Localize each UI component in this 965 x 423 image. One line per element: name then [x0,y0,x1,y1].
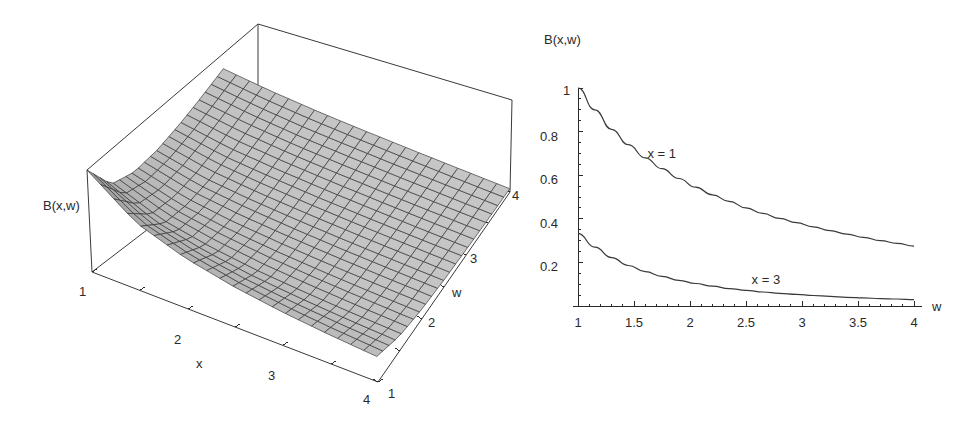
surface-w-tick-2: 2 [428,315,435,330]
curve-label-x-3: x = 3 [752,272,781,287]
x-tick-1.5: 1.5 [625,315,643,330]
y-tick-0.8: 0.8 [540,129,558,144]
x-tick-2.5: 2.5 [737,315,755,330]
surface-mesh [87,69,510,357]
line-plot-y-axis-label: B(x,w) [544,32,581,47]
curve-x-3 [578,233,914,299]
x-tick-3: 3 [798,315,805,330]
surface-w-axis-label: w [451,285,462,300]
surface-plot-panel: B(x,w) x w 1 2 3 4 1 2 3 4 [0,0,530,423]
y-tick-0.2: 0.2 [540,259,558,274]
surface-x-axis-label: x [196,356,203,371]
surface-vertical-axis-label: B(x,w) [43,198,80,213]
x-tick-1: 1 [574,315,581,330]
surface-w-tick-1: 1 [388,386,395,401]
plot-axes [573,88,922,306]
curve-x-1 [578,88,914,246]
box-left-vertical [87,170,92,272]
box-right-vertical [510,100,512,192]
data-curves [578,88,914,300]
surface-grid-lines [87,69,510,357]
surface-x-tick-2: 2 [174,332,181,347]
line-plot-panel: B(x,w) w 0.2 0.4 0.6 0.8 1 1 1.5 2 2.5 3… [530,0,965,423]
x-tick-2: 2 [686,315,693,330]
surface-x-tick-3: 3 [268,368,275,383]
axis-tick-marks [578,88,914,306]
surface-x-tick-4: 4 [363,392,370,407]
y-tick-0.6: 0.6 [540,172,558,187]
y-tick-1: 1 [563,83,570,98]
surface-x-tick-1: 1 [79,284,86,299]
curve-label-x-1: x = 1 [647,146,676,161]
surface-w-tick-4: 4 [512,188,519,203]
surface-w-tick-3: 3 [470,251,477,266]
surface-plot-svg: B(x,w) x w 1 2 3 4 1 2 3 4 [0,0,530,423]
y-tick-0.4: 0.4 [540,216,558,231]
line-plot-svg: B(x,w) w 0.2 0.4 0.6 0.8 1 1 1.5 2 2.5 3… [530,0,965,423]
x-tick-4: 4 [910,315,917,330]
figure-container: B(x,w) x w 1 2 3 4 1 2 3 4 [0,0,965,423]
line-plot-x-axis-label: w [931,299,942,314]
x-tick-3.5: 3.5 [849,315,867,330]
